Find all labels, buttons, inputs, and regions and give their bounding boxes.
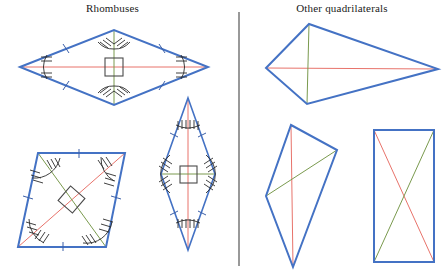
shape-rectangle-quadrilateral bbox=[374, 130, 434, 262]
diagonal-green bbox=[38, 153, 106, 247]
shape-irregular-quadrilateral bbox=[266, 125, 337, 267]
diagonal-red bbox=[291, 125, 293, 267]
angle-mark-top-right bbox=[98, 157, 116, 186]
shape-slanted-rhombus bbox=[18, 149, 125, 251]
diagram-canvas: Rhombuses Other quadrilaterals bbox=[0, 0, 444, 272]
angle-mark-bottom-right bbox=[82, 219, 113, 245]
shape-tall-vertical-rhombus bbox=[159, 98, 217, 250]
diagonal-green bbox=[266, 150, 337, 196]
shape-kite-quadrilateral bbox=[266, 24, 438, 104]
diagonal-green bbox=[307, 24, 309, 104]
diagonal-red bbox=[266, 68, 438, 69]
irregular-outline bbox=[266, 125, 337, 267]
kite-outline bbox=[266, 24, 438, 104]
geometry-figure bbox=[0, 0, 444, 272]
shape-wide-horizontal-rhombus bbox=[20, 30, 208, 105]
